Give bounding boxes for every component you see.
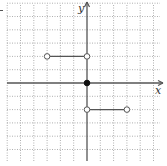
open-point-icon xyxy=(84,107,90,113)
x-axis-label: x xyxy=(155,84,162,97)
segment-lower-right xyxy=(84,107,130,113)
piecewise-function-graph: x y xyxy=(0,0,167,166)
y-axis-label: y xyxy=(77,2,85,15)
point-origin xyxy=(84,80,90,86)
open-point-icon xyxy=(84,54,90,60)
segment-upper-left xyxy=(44,54,89,60)
open-point-icon xyxy=(124,107,130,113)
closed-point-icon xyxy=(84,80,90,86)
open-point-icon xyxy=(44,54,50,60)
grid-lines xyxy=(7,3,160,161)
